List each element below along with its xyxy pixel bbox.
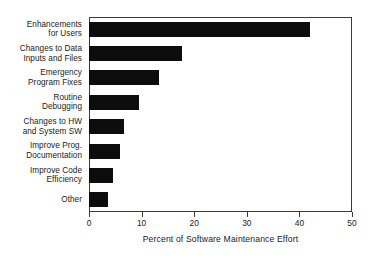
x-tick — [142, 212, 143, 217]
x-tick — [89, 212, 90, 217]
bar — [89, 22, 310, 37]
category-axis-labels: Enhancements for UsersChanges to Data In… — [0, 17, 86, 212]
category-label: Routine Debugging — [0, 93, 82, 112]
bar — [89, 119, 124, 134]
x-axis-tick-labels: 01020304050 — [0, 218, 374, 230]
category-label: Changes to Data Inputs and Files — [0, 44, 82, 63]
x-tick — [247, 212, 248, 217]
category-label: Improve Code Efficiency — [0, 166, 82, 185]
bar — [89, 95, 139, 110]
x-tick-label: 10 — [137, 218, 146, 228]
bar — [89, 70, 159, 85]
category-label: Emergency Program Fixes — [0, 68, 82, 87]
bar — [89, 168, 113, 183]
bar-chart: Enhancements for UsersChanges to Data In… — [0, 0, 374, 262]
bars-layer — [89, 17, 352, 212]
x-axis-title: Percent of Software Maintenance Effort — [89, 234, 352, 245]
bar — [89, 192, 108, 207]
bar — [89, 46, 182, 61]
x-tick-label: 40 — [295, 218, 304, 228]
x-tick — [194, 212, 195, 217]
x-tick — [299, 212, 300, 217]
x-tick — [352, 212, 353, 217]
category-label: Enhancements for Users — [0, 20, 82, 39]
category-label: Improve Prog. Documentation — [0, 141, 82, 160]
x-tick-label: 0 — [87, 218, 92, 228]
x-tick-label: 20 — [190, 218, 199, 228]
bar — [89, 144, 120, 159]
category-label: Changes to HW and System SW — [0, 117, 82, 136]
category-label: Other — [0, 195, 82, 205]
x-tick-label: 30 — [242, 218, 251, 228]
x-tick-label: 50 — [347, 218, 356, 228]
